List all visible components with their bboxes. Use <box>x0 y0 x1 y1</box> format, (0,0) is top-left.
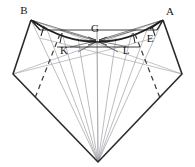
label-b: B <box>20 4 27 16</box>
geometric-diagram: B A G E K L <box>0 0 195 167</box>
label-k: K <box>60 44 68 56</box>
vertical-axis-line <box>97 26 98 162</box>
label-e: E <box>147 32 154 44</box>
geometry-canvas: B A G E K L <box>0 0 195 167</box>
dashed-line-left <box>35 34 60 98</box>
label-g: G <box>91 22 99 34</box>
cross-line-left-inner <box>13 38 155 74</box>
label-l: L <box>123 44 130 56</box>
label-a: A <box>166 5 174 17</box>
